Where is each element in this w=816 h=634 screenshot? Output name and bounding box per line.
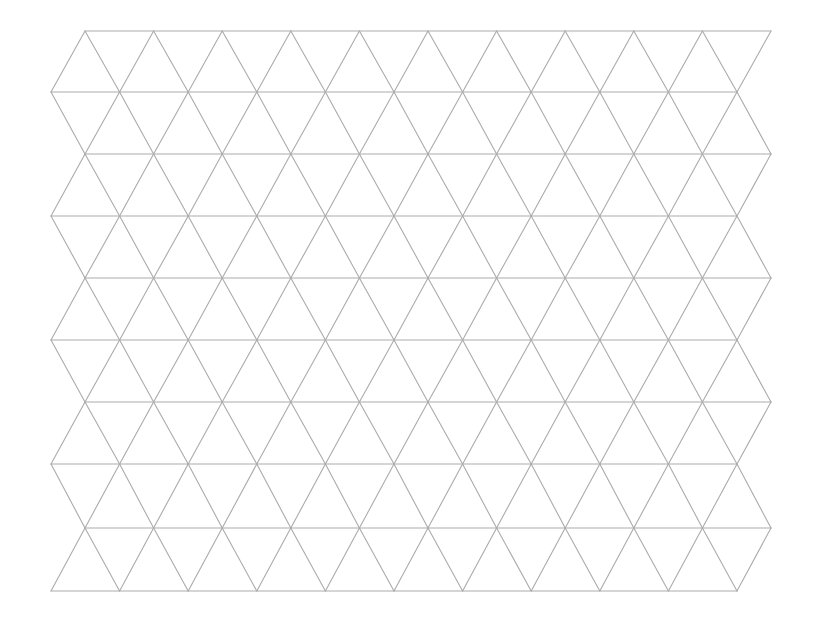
diagonal-line (120, 528, 154, 591)
diagonal-line (154, 92, 189, 154)
diagonal-line (531, 340, 565, 402)
diagonal-line (222, 402, 257, 464)
diagonal-line (188, 216, 222, 278)
diagonal-line (222, 31, 257, 92)
diagonal-line (188, 340, 222, 402)
diagonal-line (394, 216, 428, 278)
diagonal-line (291, 92, 326, 154)
diagonal-line (565, 340, 600, 402)
diagonal-line (600, 402, 634, 464)
diagonal-line (531, 528, 565, 591)
diagonal-line (634, 154, 669, 216)
diagonal-line (85, 464, 120, 528)
diagonal-line (154, 154, 189, 216)
diagonal-line (51, 528, 85, 591)
diagonal-line (463, 528, 497, 591)
diagonal-line (463, 278, 497, 340)
diagonal-line (257, 528, 291, 591)
diagonal-line (702, 402, 737, 464)
diagonal-line (222, 278, 257, 340)
diagonal-line (154, 216, 189, 278)
diagonal-line (51, 340, 85, 402)
diagonal-line (325, 31, 359, 92)
diagonal-line (291, 278, 326, 340)
diagonal-line (531, 402, 565, 464)
diagonal-line (154, 31, 189, 92)
diagonal-line (394, 340, 428, 402)
diagonal-line (188, 154, 222, 216)
diagonal-line (531, 92, 565, 154)
diagonal-line (291, 528, 326, 591)
diagonal-line (51, 154, 85, 216)
diagonal-line (634, 340, 669, 402)
diagonal-line (120, 154, 154, 216)
diagonal-line (188, 278, 222, 340)
diagonal-line (497, 464, 532, 528)
diagonal-line (463, 402, 497, 464)
diagonal-line (634, 92, 669, 154)
diagonal-line (257, 154, 291, 216)
diagonal-line (600, 31, 634, 92)
diagonal-line (531, 216, 565, 278)
diagonal-line (428, 402, 463, 464)
diagonal-line (565, 154, 600, 216)
diagonal-line (702, 216, 737, 278)
diagonal-line (394, 402, 428, 464)
diagonal-line (428, 31, 463, 92)
diagonal-line (325, 154, 359, 216)
diagonal-line (428, 92, 463, 154)
diagonal-line (428, 278, 463, 340)
diagonal-line (565, 464, 600, 528)
diagonal-line (668, 31, 702, 92)
diagonal-line (154, 340, 189, 402)
diagonal-line (85, 528, 120, 591)
diagonal-line (531, 464, 565, 528)
diagonal-line (257, 92, 291, 154)
diagonal-line (85, 154, 120, 216)
diagonal-line (257, 31, 291, 92)
diagonal-line (120, 278, 154, 340)
diagonal-line (497, 402, 532, 464)
diagonal-line (222, 464, 257, 528)
diagonal-line (737, 464, 771, 528)
diagonal-line (737, 528, 771, 591)
diagonal-line (600, 92, 634, 154)
diagonal-line (120, 31, 154, 92)
horizontal-grid-lines (51, 31, 771, 591)
diagonal-line (188, 528, 222, 591)
diagonal-line (737, 278, 771, 340)
diagonal-line (188, 92, 222, 154)
diagonal-line (154, 278, 189, 340)
diagonal-line (120, 92, 154, 154)
diagonal-line (51, 31, 85, 92)
diagonal-line (394, 154, 428, 216)
diagonal-line (154, 402, 189, 464)
diagonal-line (428, 340, 463, 402)
diagonal-line (634, 464, 669, 528)
diagonal-line (325, 528, 359, 591)
diagonal-line (634, 402, 669, 464)
diagonal-line (668, 340, 702, 402)
diagonal-line (188, 31, 222, 92)
diagonal-line (120, 464, 154, 528)
diagonal-line (531, 31, 565, 92)
diagonal-line (359, 216, 394, 278)
diagonal-line (737, 402, 771, 464)
diagonal-line (120, 402, 154, 464)
diagonal-line (120, 216, 154, 278)
diagonal-line (702, 92, 737, 154)
diagonal-line (51, 216, 85, 278)
diagonal-line (85, 31, 120, 92)
diagonal-line (668, 154, 702, 216)
diagonal-line (702, 340, 737, 402)
diagonal-line (154, 528, 189, 591)
diagonal-line (394, 92, 428, 154)
diagonal-line (85, 278, 120, 340)
diagonal-line (257, 464, 291, 528)
diagonal-line (531, 278, 565, 340)
diagonal-line (497, 528, 532, 591)
diagonal-line (257, 278, 291, 340)
diagonal-line (51, 402, 85, 464)
diagonal-line (428, 464, 463, 528)
diagonal-line (222, 528, 257, 591)
